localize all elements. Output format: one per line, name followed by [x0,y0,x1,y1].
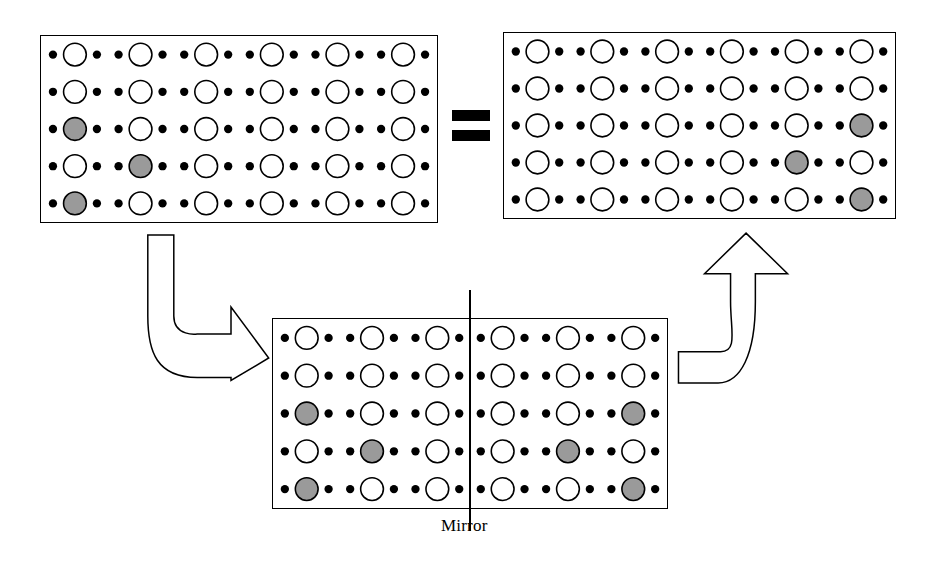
lattice-open-circle [361,402,384,425]
lattice-open-circle [622,364,645,387]
lattice-small-dot [455,372,463,380]
lattice-small-dot [520,334,528,342]
lattice-open-circle [591,151,614,174]
lattice-open-circle [721,40,744,63]
lattice-open-circle [785,188,808,211]
lattice-open-circle [295,364,318,387]
lattice-marked-circle [361,440,384,463]
lattice-grid [41,36,437,222]
lattice-small-dot [311,50,319,58]
lattice-open-circle [557,402,580,425]
lattice-marked-circle [850,114,873,137]
lattice-small-dot [520,409,528,417]
lattice-small-dot [477,334,485,342]
lattice-small-dot [607,334,615,342]
lattice-small-dot [281,372,289,380]
lattice-small-dot [290,162,298,170]
lattice-small-dot [281,485,289,493]
lattice-small-dot [641,195,649,203]
lattice-open-circle [721,151,744,174]
top-left-lattice-panel [40,35,438,223]
lattice-open-circle [326,43,349,66]
lattice-small-dot [555,121,563,129]
lattice-open-circle [195,118,218,141]
lattice-open-circle [326,80,349,103]
lattice-small-dot [49,162,57,170]
mirror-plane-line [469,290,471,531]
lattice-small-dot [49,199,57,207]
lattice-small-dot [586,447,594,455]
lattice-small-dot [749,195,757,203]
lattice-small-dot [324,447,332,455]
lattice-open-circle [491,440,514,463]
lattice-marked-circle [622,478,645,501]
lattice-small-dot [355,50,363,58]
lattice-small-dot [158,162,166,170]
lattice-marked-circle [785,151,808,174]
lattice-open-circle [785,114,808,137]
lattice-open-circle [526,188,549,211]
lattice-small-dot [879,84,887,92]
lattice-small-dot [555,158,563,166]
lattice-open-circle [721,188,744,211]
lattice-small-dot [411,334,419,342]
lattice-open-circle [195,43,218,66]
lattice-small-dot [542,372,550,380]
lattice-small-dot [836,84,844,92]
lattice-small-dot [641,84,649,92]
lattice-small-dot [542,485,550,493]
lattice-small-dot [324,409,332,417]
lattice-small-dot [706,158,714,166]
lattice-small-dot [421,125,429,133]
lattice-open-circle [260,43,283,66]
lattice-open-circle [392,80,415,103]
lattice-small-dot [651,485,659,493]
lattice-small-dot [158,199,166,207]
lattice-small-dot [620,195,628,203]
lattice-open-circle [526,114,549,137]
lattice-marked-circle [622,402,645,425]
lattice-open-circle [656,114,679,137]
lattice-small-dot [390,334,398,342]
lattice-small-dot [355,199,363,207]
lattice-marked-circle [295,402,318,425]
lattice-open-circle [656,77,679,100]
arrow-right-up [676,230,800,386]
lattice-open-circle [129,43,152,66]
equals-sign-bar [452,130,490,141]
lattice-small-dot [324,485,332,493]
lattice-open-circle [426,440,449,463]
lattice-small-dot [814,158,822,166]
lattice-small-dot [93,125,101,133]
lattice-small-dot [246,199,254,207]
lattice-small-dot [114,88,122,96]
lattice-small-dot [641,121,649,129]
lattice-small-dot [555,84,563,92]
lattice-small-dot [346,409,354,417]
lattice-small-dot [355,125,363,133]
lattice-small-dot [390,409,398,417]
lattice-open-circle [526,151,549,174]
lattice-open-circle [260,192,283,215]
lattice-small-dot [421,88,429,96]
lattice-small-dot [49,125,57,133]
lattice-open-circle [622,440,645,463]
lattice-small-dot [620,158,628,166]
lattice-small-dot [836,47,844,55]
lattice-small-dot [290,88,298,96]
lattice-small-dot [246,125,254,133]
lattice-open-circle [656,188,679,211]
lattice-open-circle [392,155,415,178]
lattice-small-dot [180,88,188,96]
lattice-small-dot [651,409,659,417]
lattice-small-dot [512,121,520,129]
lattice-open-circle [491,327,514,350]
lattice-small-dot [586,334,594,342]
lattice-small-dot [346,372,354,380]
lattice-open-circle [295,440,318,463]
lattice-marked-circle [557,440,580,463]
equals-sign-bar [452,110,490,121]
lattice-small-dot [771,47,779,55]
lattice-small-dot [607,372,615,380]
lattice-open-circle [591,188,614,211]
